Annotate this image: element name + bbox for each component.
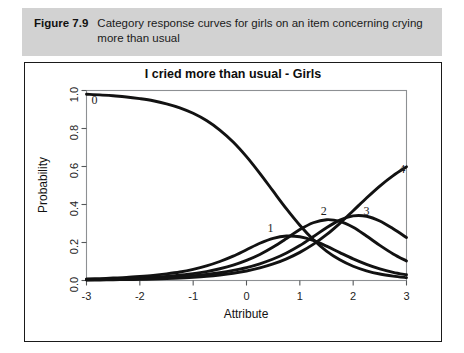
figure-number: Figure 7.9 (34, 16, 97, 31)
figure-container: Figure 7.9 Category response curves for … (0, 0, 464, 353)
figure-caption-text: Category response curves for girls on an… (97, 16, 427, 46)
figure-caption-banner: Figure 7.9 Category response curves for … (22, 8, 442, 56)
plot-frame (24, 62, 442, 342)
